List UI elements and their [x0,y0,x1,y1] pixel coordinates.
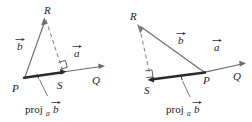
vector-a-letter-left: a [74,47,80,59]
proj-leader-line-right [183,81,191,97]
point-label-S-left: S [57,79,63,91]
projection-segment-right [148,73,206,83]
proj-variable-left: b [53,103,59,115]
proj-subscript-left: a [46,109,50,118]
proj-text-left: proj [25,103,43,115]
vector-a-letter-right: a [214,41,220,53]
vector-b-letter-right: b [178,34,184,46]
point-label-R-right: R [129,10,137,22]
proj-subscript-right: a [187,109,191,118]
point-label-Q-left: Q [92,74,100,86]
projection-label-left: proj a b [25,101,61,118]
proj-variable-right: b [194,103,200,115]
perpendicular-dashed-left [46,20,63,70]
vector-label-b-right: b [177,32,187,46]
point-label-S-right: S [144,84,150,96]
point-label-R-left: R [43,4,51,16]
projection-label-right: proj a b [166,101,202,118]
vector-label-b-left: b [16,38,26,52]
point-label-Q-right: Q [233,70,241,82]
proj-leader-line-left [40,80,48,97]
vector-projection-figure: P R S Q b a proj a b [0,0,252,122]
left-diagram: P R S Q b a proj a b [0,0,126,122]
point-label-P-right: P [202,74,210,86]
proj-text-right: proj [166,103,184,115]
point-label-P-left: P [11,82,19,94]
right-diagram: R S P Q b a proj a b [126,0,252,122]
vector-b-letter-left: b [17,40,23,52]
perpendicular-dashed-right [140,27,151,75]
vector-label-a-right: a [213,39,223,53]
vector-label-a-left: a [73,45,83,59]
vector-b-line-right [137,24,204,72]
vector-b-line-left [25,18,47,78]
right-angle-marker-left [59,60,68,69]
projection-segment-left [24,69,67,78]
